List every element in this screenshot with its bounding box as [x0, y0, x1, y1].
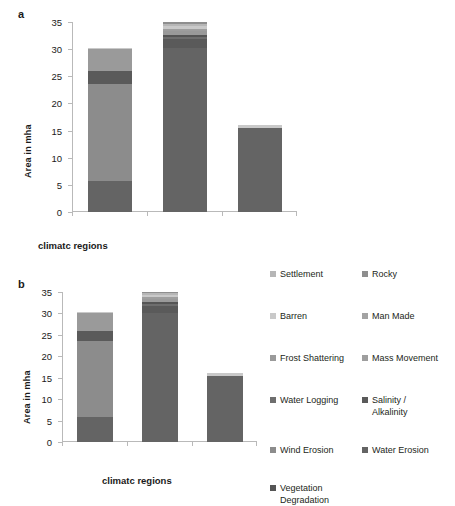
y-tick: 25 [68, 76, 72, 77]
legend-item[interactable]: Barren [270, 310, 307, 322]
y-tick: 25 [58, 335, 62, 336]
bar-segment [88, 49, 132, 71]
legend-label: Barren [280, 310, 307, 322]
panel-a-y-axis-label: Area in mha [23, 58, 33, 178]
y-tick-label: 25 [51, 71, 62, 82]
legend-swatch-icon [270, 485, 276, 491]
y-tick-label: 35 [51, 17, 62, 28]
legend-swatch-icon [270, 313, 276, 319]
bar-segment [238, 128, 282, 212]
bar-segment [88, 71, 132, 85]
y-tick-label: 35 [41, 287, 52, 298]
panel-a: a Area in mha 05101520253035 climatc reg… [0, 0, 320, 262]
bar-segment [207, 376, 243, 442]
legend-swatch-icon [362, 313, 368, 319]
bar-segment [77, 341, 113, 417]
legend-swatch-icon [270, 355, 276, 361]
x-tick [192, 442, 193, 446]
y-tick-label: 20 [51, 98, 62, 109]
legend-label: Water Erosion [372, 444, 429, 456]
bar-segment [163, 39, 207, 48]
y-tick-label: 30 [51, 44, 62, 55]
y-tick-label: 5 [57, 179, 62, 190]
stacked-bar[interactable] [163, 22, 207, 212]
y-tick: 15 [68, 131, 72, 132]
legend-swatch-icon [362, 271, 368, 277]
x-tick [222, 212, 223, 216]
y-tick: 5 [58, 421, 62, 422]
legend-item[interactable]: Rocky [362, 268, 397, 280]
legend-item[interactable]: Salinity / Alkalinity [362, 394, 408, 418]
panel-a-x-axis-label: climatc regions [38, 240, 108, 251]
bar-segment [163, 48, 207, 212]
y-tick: 10 [58, 399, 62, 400]
panel-b-y-axis-line [62, 292, 63, 442]
panel-b-plot-area: 05101520253035 [62, 292, 257, 442]
panel-a-y-axis-line [72, 22, 73, 212]
chart-legend: SettlementBarrenFrost ShatteringWater Lo… [262, 268, 455, 498]
y-tick: 35 [58, 292, 62, 293]
y-tick: 20 [58, 356, 62, 357]
bar-segment [77, 313, 113, 330]
y-tick-label: 10 [51, 152, 62, 163]
y-tick-label: 0 [57, 207, 62, 218]
legend-label: Vegetation Degradation [280, 482, 329, 506]
bar-segment [88, 84, 132, 180]
y-tick: 20 [68, 103, 72, 104]
bar-segment [77, 331, 113, 342]
x-tick [147, 212, 148, 216]
legend-swatch-icon [362, 397, 368, 403]
y-tick-label: 15 [51, 125, 62, 136]
y-tick: 30 [58, 313, 62, 314]
legend-label: Salinity / Alkalinity [372, 394, 408, 418]
legend-swatch-icon [362, 355, 368, 361]
legend-label: Water Logging [280, 394, 338, 406]
panel-b-y-axis-label: Area in mha [22, 314, 32, 424]
panel-b-x-axis-label: climatc regions [102, 475, 172, 486]
y-tick-label: 10 [41, 394, 52, 405]
legend-swatch-icon [270, 447, 276, 453]
legend-item[interactable]: Man Made [362, 310, 415, 322]
panel-b: b Area in mha 05101520253035 climatc reg… [0, 272, 260, 501]
x-tick [296, 212, 297, 216]
x-tick [72, 212, 73, 216]
bar-segment [142, 313, 178, 442]
y-tick-label: 30 [41, 308, 52, 319]
legend-label: Mass Movement [372, 352, 438, 364]
y-tick-label: 0 [47, 437, 52, 448]
panel-a-letter: a [18, 8, 24, 20]
x-tick [256, 442, 257, 446]
y-tick-label: 20 [41, 351, 52, 362]
legend-label: Man Made [372, 310, 415, 322]
stacked-bar[interactable] [88, 48, 132, 212]
x-tick [62, 442, 63, 446]
y-tick: 10 [68, 158, 72, 159]
y-tick-label: 15 [41, 372, 52, 383]
legend-item[interactable]: Vegetation Degradation [270, 482, 329, 506]
legend-label: Settlement [280, 268, 323, 280]
y-tick: 35 [68, 22, 72, 23]
legend-item[interactable]: Water Logging [270, 394, 338, 406]
legend-label: Rocky [372, 268, 397, 280]
stacked-bar[interactable] [77, 312, 113, 442]
legend-item[interactable]: Settlement [270, 268, 323, 280]
legend-item[interactable]: Frost Shattering [270, 352, 344, 364]
stacked-bar[interactable] [142, 292, 178, 442]
bar-segment [77, 417, 113, 442]
legend-item[interactable]: Mass Movement [362, 352, 438, 364]
panel-a-plot-area: 05101520253035 [72, 22, 297, 212]
legend-swatch-icon [270, 397, 276, 403]
y-tick: 15 [58, 378, 62, 379]
bar-segment [142, 306, 178, 313]
stacked-bar[interactable] [238, 125, 282, 212]
legend-item[interactable]: Wind Erosion [270, 444, 334, 456]
bar-segment [88, 181, 132, 212]
legend-swatch-icon [362, 447, 368, 453]
legend-item[interactable]: Water Erosion [362, 444, 429, 456]
y-tick: 30 [68, 49, 72, 50]
x-tick [127, 442, 128, 446]
y-tick: 5 [68, 185, 72, 186]
stacked-bar[interactable] [207, 373, 243, 442]
panel-b-letter: b [18, 278, 25, 290]
